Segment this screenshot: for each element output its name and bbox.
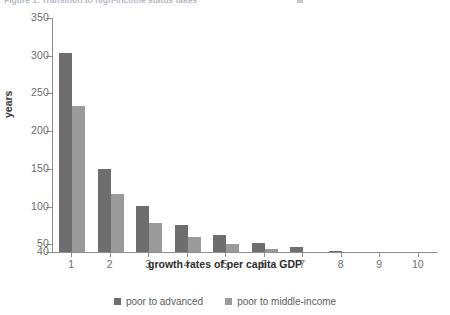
- y-tick-label: 250: [31, 86, 49, 98]
- x-tick-mark: [341, 252, 342, 257]
- bar-poor-to-middle-income: [226, 244, 239, 252]
- bar-poor-to-middle-income: [111, 194, 124, 252]
- figure-title: Figure 1. Transition to high-income stat…: [4, 0, 197, 5]
- legend-item[interactable]: poor to advanced: [114, 296, 203, 307]
- x-tick-mark: [71, 252, 72, 257]
- x-tick-mark: [418, 252, 419, 257]
- x-tick-mark: [264, 252, 265, 257]
- legend-swatch-icon: [114, 298, 121, 305]
- figure-title-strip: Figure 1. Transition to high-income stat…: [0, 0, 450, 7]
- y-tick-label: 150: [31, 162, 49, 174]
- x-axis-title: growth rates of per capita GDP: [0, 258, 450, 270]
- figure-chart: Figure 1. Transition to high-income stat…: [0, 0, 450, 315]
- bar-poor-to-middle-income: [149, 223, 162, 252]
- x-tick-mark: [148, 252, 149, 257]
- bar-poor-to-middle-income: [188, 237, 201, 252]
- x-tick-mark: [110, 252, 111, 257]
- y-tick-label: 300: [31, 49, 49, 61]
- x-tick-mark: [379, 252, 380, 257]
- title-marker-icon: [297, 0, 303, 3]
- x-tick-mark: [302, 252, 303, 257]
- bar-poor-to-advanced: [98, 169, 111, 252]
- legend-label: poor to advanced: [126, 296, 203, 307]
- legend-swatch-icon: [225, 298, 232, 305]
- y-tick-label: 100: [31, 200, 49, 212]
- y-tick-label: 200: [31, 124, 49, 136]
- y-axis-title: years: [2, 91, 14, 118]
- bar-poor-to-middle-income: [265, 249, 278, 252]
- y-tick-label: 350: [31, 11, 49, 23]
- plot-area: 4050100150200250300350 12345678910: [52, 18, 437, 252]
- y-tick-label: 50: [37, 237, 49, 249]
- bar-poor-to-advanced: [175, 225, 188, 252]
- bar-poor-to-advanced: [59, 53, 72, 252]
- bar-poor-to-advanced: [252, 243, 265, 252]
- x-tick-mark: [225, 252, 226, 257]
- bar-poor-to-middle-income: [72, 106, 85, 252]
- bar-poor-to-advanced: [136, 206, 149, 252]
- chart-legend: poor to advancedpoor to middle-income: [0, 296, 450, 307]
- x-tick-mark: [187, 252, 188, 257]
- legend-item[interactable]: poor to middle-income: [225, 296, 336, 307]
- y-axis-line: [52, 18, 53, 252]
- bar-poor-to-advanced: [213, 235, 226, 252]
- legend-label: poor to middle-income: [237, 296, 336, 307]
